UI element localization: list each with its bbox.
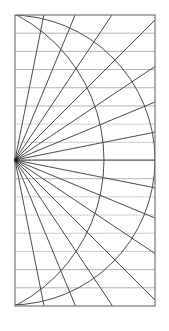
radial-ray-diagram [0, 0, 169, 331]
ray-line [15, 102, 155, 160]
ray-line [15, 20, 155, 160]
ray-line [15, 160, 155, 218]
rays-from-origin [15, 15, 155, 306]
ray-line [15, 160, 155, 300]
ray-origin-point [14, 158, 18, 162]
